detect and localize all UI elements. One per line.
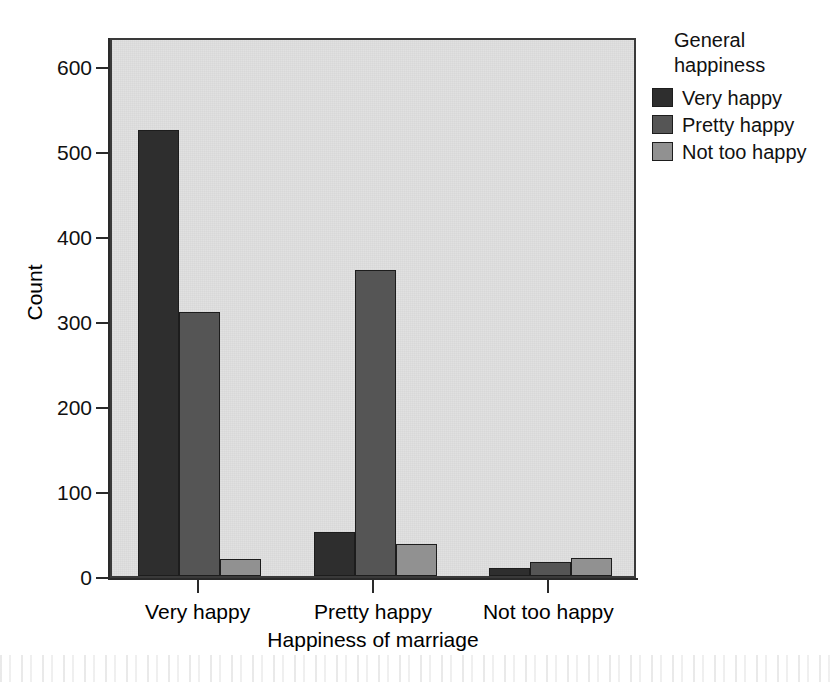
y-tick-mark [96, 67, 109, 69]
legend-item: Not too happy [652, 138, 828, 165]
legend-title-line-2: happiness [674, 53, 828, 78]
x-tick-label: Not too happy [448, 600, 648, 624]
legend-entries: Very happyPretty happyNot too happy [652, 84, 828, 165]
legend-color-swatch [652, 115, 673, 134]
y-tick-label: 600 [0, 57, 92, 78]
y-tick-label-text: 400 [6, 227, 92, 248]
bar [396, 544, 437, 576]
legend-item: Very happy [652, 84, 828, 111]
plot-area [110, 38, 636, 578]
y-tick-label-text: 0 [6, 567, 92, 588]
bar [179, 312, 220, 576]
legend-item-label: Pretty happy [682, 114, 794, 136]
bar [220, 559, 261, 576]
bars-layer [112, 40, 634, 576]
y-tick-label-text: 100 [6, 482, 92, 503]
y-tick-label: 0 [0, 567, 92, 588]
y-axis-line [108, 38, 110, 580]
bar [571, 558, 612, 576]
bar [530, 562, 571, 576]
y-tick-mark [96, 322, 109, 324]
page-scan-speckle [0, 655, 834, 682]
bar [314, 532, 355, 576]
y-tick-label-text: 300 [6, 312, 92, 333]
y-tick-label: 300 [0, 312, 92, 333]
x-tick-mark [372, 580, 374, 593]
x-tick-label: Very happy [98, 600, 298, 624]
y-tick-label: 100 [0, 482, 92, 503]
y-tick-mark [96, 237, 109, 239]
bar [355, 270, 396, 576]
y-tick-mark [96, 152, 109, 154]
legend-color-swatch [652, 88, 673, 107]
legend-item-label: Very happy [682, 87, 782, 109]
legend-item: Pretty happy [652, 111, 828, 138]
x-tick-mark [197, 580, 199, 593]
legend-title-line-1: General [674, 28, 828, 53]
bar [489, 568, 530, 577]
x-tick-mark [547, 580, 549, 593]
y-tick-label-text: 600 [6, 57, 92, 78]
clustered-bar-chart: 0100200300400500600 Count Very happyPret… [0, 0, 834, 682]
y-tick-mark [96, 407, 109, 409]
legend: General happiness Very happyPretty happy… [652, 28, 828, 165]
y-tick-label-text: 500 [6, 142, 92, 163]
legend-color-swatch [652, 142, 673, 161]
y-tick-label: 500 [0, 142, 92, 163]
x-tick-label: Pretty happy [273, 600, 473, 624]
legend-item-label: Not too happy [682, 141, 807, 163]
y-axis-title: Count [24, 233, 45, 353]
bar [138, 130, 179, 576]
x-axis-title: Happiness of marriage [110, 628, 636, 652]
y-tick-label-text: 200 [6, 397, 92, 418]
y-tick-label: 200 [0, 397, 92, 418]
y-tick-mark [96, 492, 109, 494]
y-tick-label: 400 [0, 227, 92, 248]
